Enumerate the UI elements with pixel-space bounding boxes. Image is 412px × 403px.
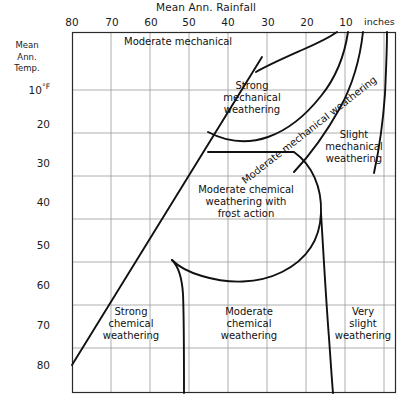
label-moderate-chemical-weathering: Moderatechemicalweathering bbox=[207, 306, 291, 342]
curve-moderate-mechanical-upper bbox=[256, 32, 337, 72]
curve-strong-chemical-hook bbox=[172, 260, 184, 393]
y-tick-10: 10°F bbox=[8, 82, 50, 96]
x-tick-50: 50 bbox=[172, 16, 206, 28]
y-axis-title-line-2: Ann. bbox=[4, 52, 50, 64]
label-strong-chemical-weathering: Strongchemicalweathering bbox=[89, 306, 173, 342]
x-tick-30: 30 bbox=[251, 16, 285, 28]
x-tick-40: 40 bbox=[211, 16, 245, 28]
y-tick-20: 20 bbox=[8, 118, 50, 130]
y-axis-title-line-1: Mean bbox=[4, 40, 50, 52]
y-axis-title: Mean Ann. Temp. bbox=[4, 40, 50, 75]
y-tick-10-value: 10 bbox=[29, 84, 42, 96]
plot-area: Moderate mechanical Strongmechanicalweat… bbox=[72, 32, 396, 393]
y-axis-title-line-3: Temp. bbox=[4, 63, 50, 75]
y-tick-60: 60 bbox=[8, 279, 50, 291]
label-moderate-chemical-frost-action: Moderate chemicalweathering withfrost ac… bbox=[182, 184, 310, 220]
x-axis-title: Mean Ann. Rainfall bbox=[0, 1, 412, 13]
label-strong-mechanical-weathering: Strongmechanicalweathering bbox=[206, 80, 298, 116]
x-tick-10: 10 bbox=[329, 16, 363, 28]
degree-f-icon: °F bbox=[42, 82, 50, 91]
curve-moderate-chemical-right bbox=[321, 213, 333, 393]
x-tick-20: 20 bbox=[290, 16, 324, 28]
label-slight-mechanical-weathering: Slightmechanicalweathering bbox=[312, 129, 396, 165]
y-tick-70: 70 bbox=[8, 319, 50, 331]
label-moderate-mechanical: Moderate mechanical bbox=[124, 36, 232, 49]
y-tick-30: 30 bbox=[8, 157, 50, 169]
x-axis-unit-label: inches bbox=[364, 16, 395, 27]
x-tick-70: 70 bbox=[95, 16, 129, 28]
label-very-slight-weathering: Veryslightweathering bbox=[326, 306, 400, 342]
y-tick-50: 50 bbox=[8, 239, 50, 251]
x-tick-80: 80 bbox=[55, 16, 89, 28]
x-tick-60: 60 bbox=[134, 16, 168, 28]
weathering-chart: Mean Ann. Rainfall Mean Ann. Temp. 80 70… bbox=[0, 0, 412, 403]
y-tick-80: 80 bbox=[8, 359, 50, 371]
y-tick-40: 40 bbox=[8, 196, 50, 208]
